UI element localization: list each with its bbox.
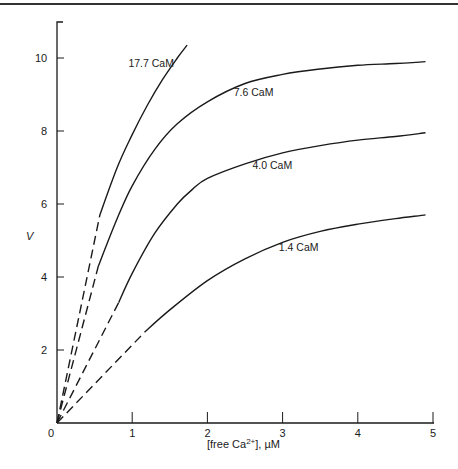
dashed-extrapolation [57, 303, 119, 423]
x-axis-title-pre: [free Ca [207, 438, 247, 450]
dashed-extrapolation [57, 215, 100, 423]
x-axis-title-post: ], µM [255, 438, 280, 450]
solid-curve [100, 45, 187, 215]
y-tick-label: 8 [41, 125, 47, 137]
solid-curve [119, 133, 426, 303]
curve-7-6-cam [57, 62, 426, 423]
x-axis-title-sup: 2+ [246, 437, 255, 446]
chart-canvas: 012345246810 17.7 CaM7.6 CaM4.0 CaM1.4 C… [0, 0, 458, 469]
solid-curve [145, 215, 426, 332]
y-tick-label: 10 [35, 52, 47, 64]
curve-label: 17.7 CaM [128, 57, 174, 69]
x-axis-title: [free Ca2+], µM [207, 437, 280, 450]
curve-label: 4.0 CaM [253, 159, 293, 171]
curve-label: 7.6 CaM [234, 86, 274, 98]
x-tick-label: 1 [129, 427, 135, 439]
curve-17-7-cam [57, 45, 187, 423]
y-axis-line [57, 22, 63, 423]
axes: 012345246810 [35, 22, 436, 439]
curve-1-4-cam [57, 215, 426, 423]
dashed-extrapolation [57, 266, 98, 423]
y-axis-title: V [26, 230, 35, 242]
x-tick-label: 3 [280, 427, 286, 439]
x-tick-label: 0 [48, 427, 54, 439]
x-tick-label: 5 [430, 427, 436, 439]
y-tick-label: 2 [41, 344, 47, 356]
dashed-extrapolation [57, 332, 145, 423]
curve-label: 1.4 CaM [279, 241, 319, 253]
curve-4-0-cam [57, 133, 426, 423]
curves [57, 45, 426, 423]
y-tick-label: 4 [41, 271, 47, 283]
curve-labels: 17.7 CaM7.6 CaM4.0 CaM1.4 CaM [128, 57, 318, 253]
y-tick-label: 6 [41, 198, 47, 210]
x-tick-label: 4 [355, 427, 361, 439]
